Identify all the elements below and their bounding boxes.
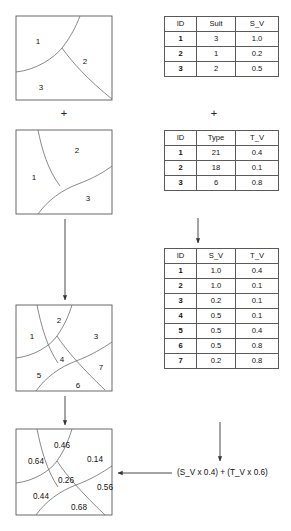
plus-operator-left: +	[57, 108, 71, 119]
table-cell: 1	[165, 146, 197, 161]
table-cell: 0.1	[236, 161, 279, 176]
table-cell: 7	[165, 354, 197, 369]
figure-root: + + 1 2 3 1 2 3 1 2 3 4 5 6 7 0.46 0.64 …	[0, 0, 291, 531]
table-row: 5 0.5 0.4	[165, 324, 279, 339]
column-header: S_V	[236, 17, 279, 32]
region-label: 1	[27, 174, 41, 182]
table-cell: 0.5	[236, 62, 279, 77]
region-label: 1	[31, 38, 45, 46]
table-cell: 1	[197, 47, 236, 62]
result-value-label: 0.64	[19, 458, 53, 466]
table-cell: 0.8	[236, 176, 279, 191]
plus-operator-right: +	[207, 108, 221, 119]
table-cell: 0.2	[236, 47, 279, 62]
weighted-sum-formula: (S_V x 0.4) + (T_V x 0.6)	[177, 469, 268, 477]
region-label: 2	[78, 58, 92, 66]
column-header: T_V	[236, 249, 279, 264]
table-cell: 0.8	[236, 339, 279, 354]
region-label: 7	[94, 364, 108, 372]
table-cell: 5	[165, 324, 197, 339]
table-cell: 0.8	[236, 354, 279, 369]
region-label: 3	[89, 333, 103, 341]
table-row: 1 1.0 0.4	[165, 264, 279, 279]
type-map-graphic	[16, 130, 112, 214]
table-cell: 21	[197, 146, 236, 161]
result-value-label: 0.14	[78, 456, 112, 464]
table-cell: 1.0	[197, 279, 236, 294]
column-header: ID	[165, 131, 197, 146]
table-row: 4 0.5 0.1	[165, 309, 279, 324]
table-cell: 6	[197, 176, 236, 191]
column-header: T_V	[236, 131, 279, 146]
result-value-label: 0.26	[49, 477, 83, 485]
column-header: ID	[165, 249, 197, 264]
region-label: 6	[71, 382, 85, 390]
table-cell: 1.0	[197, 264, 236, 279]
table-cell: 6	[165, 339, 197, 354]
table-row: 1 21 0.4	[165, 146, 279, 161]
region-label: 3	[34, 84, 48, 92]
column-header: Suit	[197, 17, 236, 32]
table-header-row: ID Type T_V	[165, 131, 279, 146]
table-cell: 0.5	[197, 324, 236, 339]
table-cell: 3	[197, 32, 236, 47]
table-row: 7 0.2 0.8	[165, 354, 279, 369]
table-row: 2 1 0.2	[165, 47, 279, 62]
table-cell: 2	[197, 62, 236, 77]
suitability-map-graphic	[16, 16, 112, 100]
table-cell: 2	[165, 47, 197, 62]
table-cell: 1	[165, 32, 197, 47]
region-label: 2	[70, 147, 84, 155]
column-header: ID	[165, 17, 197, 32]
type-table: ID Type T_V 1 21 0.4 2 18 0.1 3 6 0.8	[164, 130, 279, 191]
table-cell: 0.5	[197, 339, 236, 354]
combined-table: ID S_V T_V 1 1.0 0.4 2 1.0 0.1 3 0.2 0.1…	[164, 248, 279, 369]
table-row: 2 18 0.1	[165, 161, 279, 176]
region-label: 5	[32, 372, 46, 380]
table-cell: 0.1	[236, 279, 279, 294]
table-cell: 1.0	[236, 32, 279, 47]
table-cell: 2	[165, 279, 197, 294]
table-cell: 18	[197, 161, 236, 176]
table-row: 3 2 0.5	[165, 62, 279, 77]
table-cell: 0.2	[197, 294, 236, 309]
table-row: 2 1.0 0.1	[165, 279, 279, 294]
table-cell: 0.5	[197, 309, 236, 324]
result-value-label: 0.44	[24, 493, 58, 501]
suitability-table: ID Suit S_V 1 3 1.0 2 1 0.2 3 2 0.5	[164, 16, 279, 77]
table-cell: 0.1	[236, 309, 279, 324]
result-value-label: 0.56	[88, 484, 122, 492]
result-value-label: 0.68	[62, 504, 96, 512]
table-cell: 0.4	[236, 264, 279, 279]
table-cell: 0.4	[236, 146, 279, 161]
region-label: 3	[81, 195, 95, 203]
table-cell: 0.1	[236, 294, 279, 309]
table-cell: 3	[165, 176, 197, 191]
table-row: 3 0.2 0.1	[165, 294, 279, 309]
result-value-label: 0.46	[45, 442, 79, 450]
table-cell: 4	[165, 309, 197, 324]
table-cell: 1	[165, 264, 197, 279]
table-row: 6 0.5 0.8	[165, 339, 279, 354]
column-header: Type	[197, 131, 236, 146]
table-cell: 3	[165, 62, 197, 77]
table-header-row: ID S_V T_V	[165, 249, 279, 264]
table-cell: 2	[165, 161, 197, 176]
region-label: 2	[52, 317, 66, 325]
column-header: S_V	[197, 249, 236, 264]
table-cell: 3	[165, 294, 197, 309]
table-cell: 0.4	[236, 324, 279, 339]
table-row: 3 6 0.8	[165, 176, 279, 191]
table-cell: 0.2	[197, 354, 236, 369]
table-header-row: ID Suit S_V	[165, 17, 279, 32]
region-label: 1	[25, 333, 39, 341]
table-row: 1 3 1.0	[165, 32, 279, 47]
region-label: 4	[55, 356, 69, 364]
